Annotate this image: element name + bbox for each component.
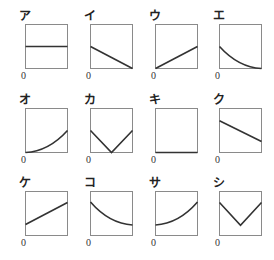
graph-panel-10: コ 0 (90, 191, 150, 260)
graph-curve (220, 121, 262, 142)
graph-label: イ (84, 10, 96, 22)
graph-label: カ (84, 94, 96, 106)
graph-curve (156, 47, 198, 69)
graph-label: ア (19, 10, 31, 22)
graph-curve (91, 47, 133, 69)
graph-plot (25, 191, 69, 237)
graph-curve (220, 47, 262, 69)
origin-label: 0 (86, 71, 91, 81)
graph-plot (25, 108, 69, 154)
graph-panel-11: サ 0 (155, 191, 215, 260)
graph-panel-8: ク 0 (219, 108, 274, 188)
graph-plot (90, 108, 134, 154)
graph-frame (156, 192, 198, 236)
graph-panel-7: キ 0 (155, 108, 215, 188)
graph-frame (91, 25, 133, 69)
graph-label: オ (19, 94, 31, 106)
graph-frame (91, 109, 133, 153)
graph-plot (219, 108, 263, 154)
graph-plot (25, 24, 69, 70)
graph-curve (220, 203, 262, 226)
graph-frame (26, 109, 68, 153)
graph-label: キ (149, 94, 161, 106)
graph-frame (220, 25, 262, 69)
graph-plot (90, 24, 134, 70)
graph-plot (155, 24, 199, 70)
origin-label: 0 (21, 155, 26, 165)
origin-label: 0 (215, 155, 220, 165)
graph-plot (90, 191, 134, 237)
graph-panel-2: イ 0 (90, 24, 150, 104)
graph-panel-4: エ 0 (219, 24, 274, 104)
origin-label: 0 (215, 238, 220, 248)
graph-curve (91, 202, 133, 225)
origin-label: 0 (151, 155, 156, 165)
graph-panel-12: シ 0 (219, 191, 274, 260)
graph-label: ケ (19, 177, 31, 189)
origin-label: 0 (215, 71, 220, 81)
graph-label: サ (149, 177, 161, 189)
graph-plot (155, 191, 199, 237)
graph-label: コ (84, 177, 96, 189)
origin-label: 0 (21, 238, 26, 248)
graph-plot (155, 108, 199, 154)
graph-curve (26, 131, 68, 153)
graph-curve (26, 203, 68, 225)
graph-curve (91, 131, 133, 153)
origin-label: 0 (151, 71, 156, 81)
graph-label: ク (213, 94, 225, 106)
graph-plot (219, 191, 263, 237)
graph-panel-5: オ 0 (25, 108, 85, 188)
graph-label: シ (213, 177, 225, 189)
graph-panel-3: ウ 0 (155, 24, 215, 104)
graph-plot (219, 24, 263, 70)
graph-frame (220, 192, 262, 236)
graph-panel-6: カ 0 (90, 108, 150, 188)
graph-panel-9: ケ 0 (25, 191, 85, 260)
origin-label: 0 (151, 238, 156, 248)
graph-label: ウ (149, 10, 161, 22)
graph-curve (156, 202, 198, 225)
origin-label: 0 (86, 155, 91, 165)
graph-frame (91, 192, 133, 236)
origin-label: 0 (21, 71, 26, 81)
graph-frame (156, 25, 198, 69)
graph-label: エ (213, 10, 225, 22)
origin-label: 0 (86, 238, 91, 248)
graph-frame (156, 109, 198, 153)
graph-panel-1: ア 0 (25, 24, 85, 104)
